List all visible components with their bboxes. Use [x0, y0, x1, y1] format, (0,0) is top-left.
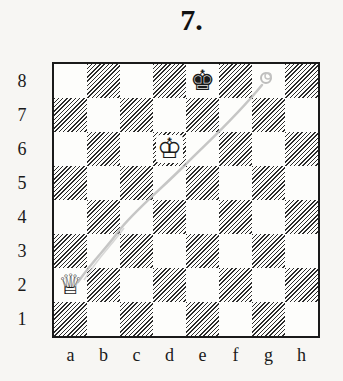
square-b5	[87, 166, 120, 200]
rank-label-7: 7	[10, 98, 34, 132]
white-queen-icon: ♕	[54, 268, 87, 302]
square-f1	[219, 302, 252, 336]
square-h6	[285, 132, 318, 166]
square-f3	[219, 234, 252, 268]
piece-glyph: ♚	[189, 67, 216, 95]
square-h5	[285, 166, 318, 200]
square-a3	[54, 234, 87, 268]
square-c6	[120, 132, 153, 166]
square-e2	[186, 268, 219, 302]
file-label-a: a	[54, 343, 87, 367]
square-b2	[87, 268, 120, 302]
square-e1	[186, 302, 219, 336]
square-a6	[54, 132, 87, 166]
square-d3	[153, 234, 186, 268]
piece-glyph: ♕	[57, 271, 84, 299]
square-d4	[153, 200, 186, 234]
square-g5	[252, 166, 285, 200]
square-a7	[54, 98, 87, 132]
square-h4	[285, 200, 318, 234]
square-e8: ♚	[186, 64, 219, 98]
square-c7	[120, 98, 153, 132]
square-g6	[252, 132, 285, 166]
square-c4	[120, 200, 153, 234]
square-h2	[285, 268, 318, 302]
square-e4	[186, 200, 219, 234]
square-g1	[252, 302, 285, 336]
square-f7	[219, 98, 252, 132]
rank-label-5: 5	[10, 166, 34, 200]
square-e7	[186, 98, 219, 132]
square-f4	[219, 200, 252, 234]
square-b3	[87, 234, 120, 268]
file-label-g: g	[252, 343, 285, 367]
square-a5	[54, 166, 87, 200]
square-d8	[153, 64, 186, 98]
square-a4	[54, 200, 87, 234]
rank-label-3: 3	[10, 234, 34, 268]
square-b8	[87, 64, 120, 98]
square-f8	[219, 64, 252, 98]
rank-label-1: 1	[10, 302, 34, 336]
file-label-b: b	[87, 343, 120, 367]
square-h8	[285, 64, 318, 98]
square-f2	[219, 268, 252, 302]
square-h7	[285, 98, 318, 132]
square-b4	[87, 200, 120, 234]
square-g2	[252, 268, 285, 302]
square-g3	[252, 234, 285, 268]
square-h3	[285, 234, 318, 268]
square-e5	[186, 166, 219, 200]
square-g4	[252, 200, 285, 234]
rank-label-8: 8	[10, 64, 34, 98]
square-c5	[120, 166, 153, 200]
square-b7	[87, 98, 120, 132]
file-label-c: c	[120, 343, 153, 367]
diagram-number: 7.	[0, 2, 343, 38]
square-f6	[219, 132, 252, 166]
square-d5	[153, 166, 186, 200]
square-c2	[120, 268, 153, 302]
rank-label-4: 4	[10, 200, 34, 234]
square-c1	[120, 302, 153, 336]
square-b1	[87, 302, 120, 336]
file-label-e: e	[186, 343, 219, 367]
rank-label-2: 2	[10, 268, 34, 302]
square-f5	[219, 166, 252, 200]
square-e6	[186, 132, 219, 166]
square-b6	[87, 132, 120, 166]
file-label-f: f	[219, 343, 252, 367]
chess-board: ♚♔♕	[52, 62, 320, 338]
white-king-icon: ♔	[153, 132, 186, 166]
square-d7	[153, 98, 186, 132]
square-a2: ♕	[54, 268, 87, 302]
square-g7	[252, 98, 285, 132]
square-e3	[186, 234, 219, 268]
piece-glyph: ♔	[156, 135, 183, 163]
square-d6: ♔	[153, 132, 186, 166]
black-king-icon: ♚	[186, 64, 219, 98]
square-c8	[120, 64, 153, 98]
rank-label-6: 6	[10, 132, 34, 166]
square-h1	[285, 302, 318, 336]
square-g8	[252, 64, 285, 98]
square-c3	[120, 234, 153, 268]
file-label-h: h	[285, 343, 318, 367]
square-a1	[54, 302, 87, 336]
square-d2	[153, 268, 186, 302]
file-label-d: d	[153, 343, 186, 367]
square-d1	[153, 302, 186, 336]
square-a8	[54, 64, 87, 98]
